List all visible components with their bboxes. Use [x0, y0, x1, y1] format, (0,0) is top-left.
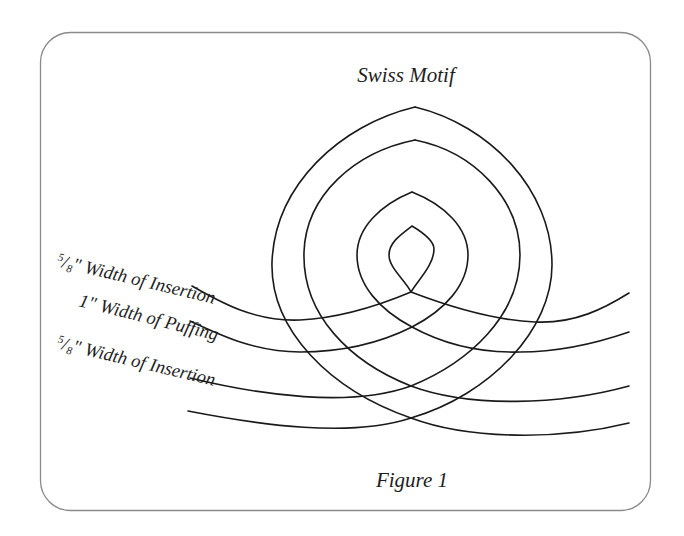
inner-loop	[389, 226, 434, 292]
outer-loop-band	[272, 107, 629, 435]
label-insertion-bottom: 5/8" Width of Insertion	[55, 332, 218, 390]
band-labels: 5/8" Width of Insertion 1" Width of Puff…	[55, 250, 221, 390]
figure-title: Swiss Motif	[357, 63, 458, 87]
figure-caption: Figure 1	[375, 468, 448, 492]
motif-drawing	[188, 107, 629, 435]
top-wave-right	[411, 292, 629, 322]
second-loop-band-right	[190, 140, 520, 398]
swiss-motif-figure: Swiss Motif 5/8" Width of Insertion 1" W…	[0, 0, 684, 536]
